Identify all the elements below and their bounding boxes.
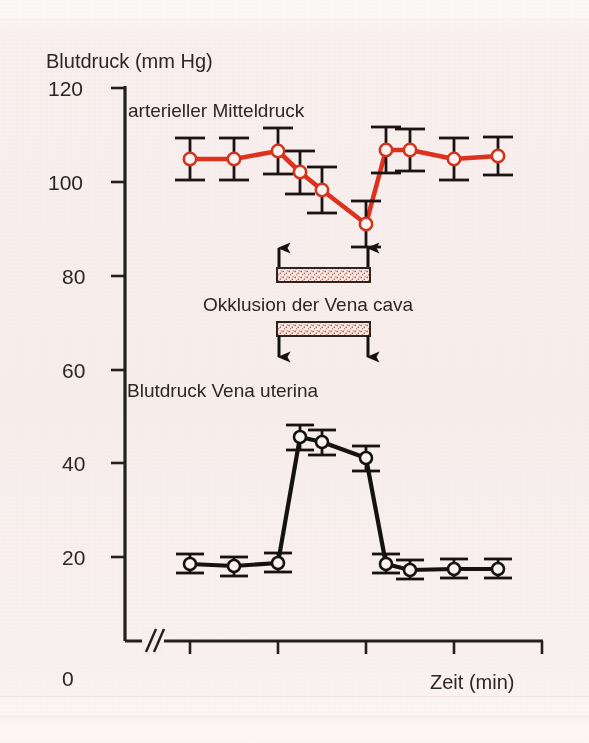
arterial-series-label: arterieller Mitteldruck [128,100,305,121]
page-separator-line [0,696,589,697]
y-tick-label-100: 100 [48,171,83,194]
upper-occlusion-bar [277,268,370,282]
y-axis [111,86,125,641]
uterine-markers [184,431,504,576]
arterial-error-bars [175,127,513,247]
y-tick-label-120: 120 [48,77,83,100]
figure-page: Blutdruck (mm Hg) 120 100 80 60 40 20 0 … [0,0,589,743]
lower-occlusion-bar [277,322,370,336]
occlusion-label: Okklusion der Vena cava [203,294,414,315]
blood-pressure-chart: Blutdruck (mm Hg) 120 100 80 60 40 20 0 … [0,0,589,743]
y-tick-label-20: 20 [62,546,85,569]
y-axis-title: Blutdruck (mm Hg) [46,50,213,72]
arterial-markers [184,144,504,230]
y-tick-label-60: 60 [62,359,85,382]
x-axis-title: Zeit (min) [430,671,514,693]
y-tick-label-40: 40 [62,452,85,475]
uterine-series-label: Blutdruck Vena uterina [127,380,319,401]
uterine-line [190,437,498,570]
x-axis [125,629,543,654]
x-axis-break-mark [142,629,164,652]
series-uterine-vein-pressure [176,425,512,579]
series-arterial-mitteldruck [175,127,513,247]
page-bottom-margin [0,715,589,743]
y-tick-label-0: 0 [62,667,74,690]
y-tick-label-80: 80 [62,265,85,288]
